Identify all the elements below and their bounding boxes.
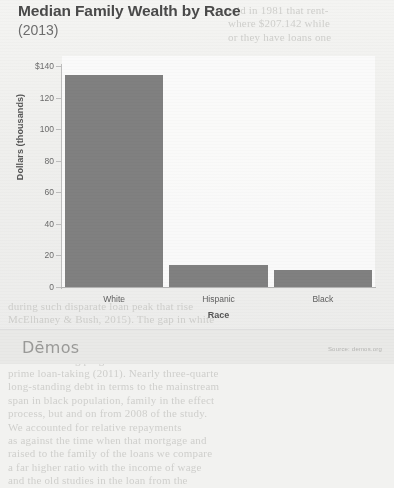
plot-area <box>62 66 375 287</box>
y-axis-tick-label: 20 <box>8 250 54 260</box>
y-axis-tick <box>56 98 61 99</box>
y-axis-tick-label: 0 <box>8 282 54 292</box>
bar <box>274 270 372 287</box>
y-axis-tick-label: 40 <box>8 219 54 229</box>
chart-footer: Dēmos Source: demos.org <box>0 329 394 364</box>
y-axis-tick <box>56 255 61 256</box>
y-axis-tick <box>56 192 61 193</box>
y-axis-tick <box>56 66 61 67</box>
x-axis-tick-label: Black <box>271 294 375 304</box>
y-axis-tick <box>56 161 61 162</box>
x-axis-tick-label: White <box>62 294 166 304</box>
y-axis-tick-label: $140 <box>8 61 54 71</box>
source-attribution: Source: demos.org <box>328 346 382 352</box>
bar <box>169 265 267 287</box>
x-axis-tick-label: Hispanic <box>166 294 270 304</box>
x-axis-title: Race <box>62 310 375 320</box>
y-axis-tick-label: 60 <box>8 187 54 197</box>
y-axis-tick <box>56 287 61 288</box>
x-axis-line <box>61 287 376 288</box>
y-axis-title: Dollars (thousands) <box>15 87 25 187</box>
y-axis-tick <box>56 224 61 225</box>
y-axis-tick <box>56 129 61 130</box>
chart-figure: Median Family Wealth by Race (2013) $140… <box>0 0 394 330</box>
bar <box>65 75 163 287</box>
demos-logo: Dēmos <box>22 338 79 357</box>
y-axis-tick-labels: $140120100806040200 <box>0 0 54 364</box>
